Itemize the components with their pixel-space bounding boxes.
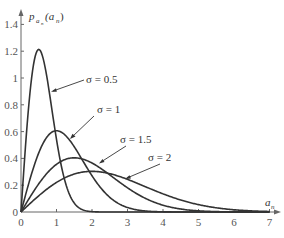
y-label-arg: (a [45, 10, 55, 23]
leader-sigma-2 [127, 164, 160, 178]
x-axis-label: a n [265, 196, 275, 211]
curve-sigma-2 [21, 171, 270, 212]
y-tick-label: 0.6 [4, 126, 18, 138]
annotation-sigma-1: σ = 1 [97, 103, 120, 115]
leader-sigma-1-5 [101, 146, 126, 162]
y-tick-label: 0.4 [4, 152, 18, 164]
x-axis-arrow-icon [274, 210, 281, 215]
y-label-sub-a: a [36, 17, 40, 25]
x-tick-label: 5 [196, 216, 202, 228]
y-label-close: ) [60, 10, 64, 23]
annotation-sigma-0-5: σ = 0.5 [86, 73, 118, 85]
x-tick-label: 6 [231, 216, 237, 228]
x-tick-label: 0 [18, 216, 24, 228]
y-axis-label: p a n (a n ) [28, 10, 64, 26]
y-axis-arrow-icon [19, 9, 24, 16]
annotation-sigma-2: σ = 2 [148, 151, 171, 163]
y-label-p: p [28, 10, 35, 22]
x-tick-label: 3 [125, 216, 131, 228]
y-tick-label: 0.8 [4, 99, 18, 111]
curve-sigma-1-5 [21, 158, 270, 212]
y-tick-label: 1.4 [4, 18, 18, 30]
annotations: σ = 0.5 σ = 1 σ = 1.5 σ = 2 [51, 73, 171, 179]
y-tick-label: 0 [13, 206, 19, 218]
y-tick-label: 1.2 [4, 45, 18, 57]
axes [19, 9, 282, 215]
arrow-head-icon [125, 175, 131, 179]
x-tick-label: 1 [54, 216, 60, 228]
x-label-sub-n: n [271, 203, 275, 211]
y-tick-label: 0.2 [4, 179, 18, 191]
y-label-sub-n: n [41, 21, 44, 26]
curves [21, 49, 270, 212]
x-tick-label: 2 [89, 216, 95, 228]
leader-sigma-0-5 [53, 80, 84, 91]
leader-sigma-1 [72, 116, 94, 137]
arrow-head-icon [99, 159, 105, 164]
annotation-sigma-1-5: σ = 1.5 [120, 133, 152, 145]
y-tick-label: 1 [13, 72, 19, 84]
rayleigh-pdf-chart: 01234567 00.20.40.60.811.21.4 p a n (a n… [0, 0, 284, 238]
arrow-head-icon [51, 88, 57, 92]
x-tick-label: 4 [160, 216, 166, 228]
x-tick-label: 7 [267, 216, 273, 228]
